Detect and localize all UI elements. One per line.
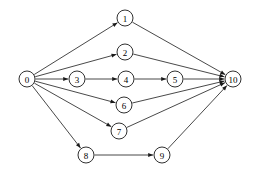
node-label-3: 3	[75, 75, 80, 85]
node-label-7: 7	[117, 127, 122, 137]
graph-node-10[interactable]: 10	[225, 71, 241, 87]
graph-node-1[interactable]: 1	[117, 10, 133, 26]
graph-node-4[interactable]: 4	[118, 71, 134, 87]
arrowhead-icon	[112, 23, 117, 27]
graph-node-2[interactable]: 2	[117, 44, 133, 60]
node-label-10: 10	[229, 75, 239, 85]
graph-diagram: 012345678910	[0, 0, 254, 177]
arrowhead-icon	[161, 77, 166, 81]
graph-edge-8-to-9	[95, 153, 154, 157]
arrowhead-icon	[110, 100, 115, 104]
arrowhead-icon	[112, 77, 117, 81]
graph-edge-4-to-5	[135, 77, 167, 81]
node-label-0: 0	[25, 75, 30, 85]
node-label-2: 2	[123, 48, 128, 58]
node-label-1: 1	[123, 14, 128, 24]
arrowhead-icon	[63, 77, 68, 81]
graph-node-5[interactable]: 5	[167, 71, 183, 87]
nodes-layer: 012345678910	[19, 10, 241, 163]
arrowhead-icon	[220, 83, 225, 87]
graph-edge-7-to-10	[127, 83, 225, 128]
graph-node-8[interactable]: 8	[78, 147, 94, 163]
graph-node-7[interactable]: 7	[111, 123, 127, 139]
graph-edge-0-to-1	[34, 23, 117, 75]
arrowhead-icon	[111, 54, 116, 58]
graph-edge-1-to-10	[132, 22, 225, 74]
node-label-5: 5	[173, 75, 178, 85]
arrowhead-icon	[148, 153, 153, 157]
node-label-8: 8	[84, 151, 89, 161]
node-label-4: 4	[124, 75, 129, 85]
graph-node-6[interactable]: 6	[116, 97, 132, 113]
graph-edge-0-to-7	[34, 83, 111, 126]
graph-node-3[interactable]: 3	[69, 71, 85, 87]
graph-node-0[interactable]: 0	[19, 71, 35, 87]
graph-edge-3-to-4	[86, 77, 118, 81]
node-label-9: 9	[160, 151, 165, 161]
graph-edge-5-to-10	[184, 77, 225, 81]
arrowhead-icon	[220, 70, 225, 74]
arrowhead-icon	[106, 122, 111, 126]
graph-edge-0-to-3	[36, 77, 69, 81]
arrowhead-icon	[76, 143, 81, 148]
graph-node-9[interactable]: 9	[154, 147, 170, 163]
graph-edge-0-to-8	[32, 86, 80, 148]
node-label-6: 6	[122, 101, 127, 111]
edges-layer	[32, 22, 227, 157]
